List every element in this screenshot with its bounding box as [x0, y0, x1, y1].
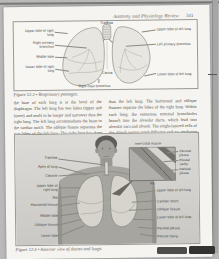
figure-respiratory-passages: Trachea Upper lobe of right lung Right p…	[13, 19, 199, 91]
label-upper-lobe-right: Upper lobe of right lung	[22, 29, 54, 37]
margin-callout-line	[208, 74, 217, 75]
label-horizontal-fissure: Horizontal fissure	[30, 203, 58, 207]
viewer-toolbar-button-2[interactable]	[189, 246, 215, 254]
label-visceral-pleura: Visceral pleura	[179, 150, 197, 158]
viewer-toolbar-button-1[interactable]	[157, 247, 187, 254]
label-trachea-2: Trachea	[27, 156, 57, 160]
label-parietal-pleura-2: Parietal pleura	[157, 225, 195, 229]
label-upper-lobe-left-2: Upper lobe of left lung	[157, 188, 195, 192]
label-cardiac-notch: Cardiac notch	[157, 198, 195, 202]
label-rib: Rib	[146, 182, 160, 186]
label-carina: Carina	[98, 71, 116, 75]
leader-line	[98, 79, 99, 83]
page-number: 341	[186, 13, 194, 18]
figure-caption: Figure 12.2 • Respiratory passages.	[14, 91, 79, 97]
label-oblique-fissure: Oblique fissure	[30, 222, 58, 226]
label-parietal-pleura: Parietal pleura	[179, 168, 197, 176]
label-pleural-cavity: Pleural cavity	[179, 159, 197, 167]
figure-thorax-photo: Intercostal muscle Visceral pleura Pleur…	[14, 132, 200, 246]
running-head-title: Anatomy and Physiology Review	[113, 13, 179, 19]
label-right-primary-bronchus: Right primary bronchus	[22, 41, 54, 49]
label-lower-lobe-left: Lower lobe of left lung	[157, 72, 193, 76]
label-lower-lobe-right: Lower lobe of right lung	[22, 65, 54, 73]
label-upper-lobe-right-2: Upper lobe of right lung	[30, 184, 58, 192]
leader-line	[106, 21, 107, 24]
label-upper-lobe-left: Upper lobe of left lung	[157, 27, 193, 31]
figure-caption-2: Figure 12.3 • Anterior view of thorax an…	[15, 246, 102, 252]
label-rib-2: Rib	[28, 196, 58, 200]
label-middle-lobe-2: Middle lobe	[30, 213, 58, 217]
label-oblique-fissure-2: Oblique fissure	[157, 206, 195, 210]
scan-right-edge	[212, 0, 218, 253]
label-middle-lobe: Middle lobe	[22, 55, 54, 59]
label-apex-of-lung: Apex of lung	[27, 164, 57, 168]
label-lower-lobe: Lower lobe	[30, 233, 58, 237]
label-right-main-bronchus: Right main bronchus	[72, 83, 116, 88]
label-lower-lobe-left: Lower lobe of left lung	[157, 214, 195, 218]
running-head: Anatomy and Physiology Review 341	[113, 13, 193, 19]
label-clavicle: Clavicle	[28, 173, 58, 177]
label-inset-title: Intercostal muscle	[120, 142, 176, 146]
label-pleural-cavity-2: Pleural cavity	[157, 233, 195, 237]
label-left-primary-bronchus: Left primary bronchus	[157, 42, 193, 46]
book-page: Anatomy and Physiology Review 341	[3, 5, 212, 259]
leader-line	[153, 179, 154, 182]
